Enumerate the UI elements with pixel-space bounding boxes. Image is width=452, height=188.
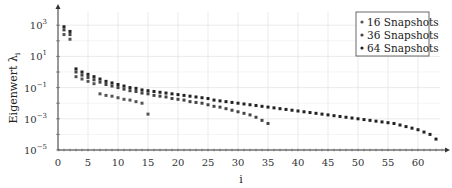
data-point (231, 109, 234, 112)
y-axis-label: Eigenwert λi (7, 52, 22, 123)
data-point (165, 95, 168, 98)
x-tick-label: 20 (172, 157, 185, 168)
y-axis-label-group: Eigenwert λi (7, 52, 22, 123)
data-point (315, 112, 318, 115)
data-point (351, 117, 354, 120)
data-point (159, 95, 162, 98)
data-point (87, 80, 90, 83)
data-point (405, 125, 408, 128)
data-point (243, 102, 246, 105)
data-point (207, 97, 210, 100)
y-tick-label: 103 (30, 18, 47, 31)
data-point (201, 102, 204, 105)
data-point (339, 115, 342, 118)
data-point (321, 113, 324, 116)
legend-item-16-snapshots: 16 Snapshots (367, 16, 439, 28)
data-point (375, 120, 378, 123)
data-point (105, 94, 108, 97)
data-point (345, 116, 348, 119)
legend-item-64-snapshots: 64 Snapshots (367, 42, 439, 54)
y-tick-label: 10−1 (24, 81, 47, 94)
data-point (69, 33, 72, 36)
y-tick-exponent: 1 (43, 49, 47, 57)
x-axis-label: i (239, 173, 243, 186)
data-point (129, 99, 132, 102)
data-point (159, 91, 162, 94)
data-point (129, 86, 132, 89)
y-tick-exponent: 3 (43, 18, 47, 26)
data-point (75, 71, 78, 74)
data-point (81, 71, 84, 74)
data-point (105, 83, 108, 86)
data-point (195, 101, 198, 104)
x-tick-labels: 051015202530354045505560 (55, 157, 425, 168)
data-point (141, 92, 144, 95)
y-tick-label: 101 (30, 49, 47, 62)
data-point (171, 97, 174, 100)
data-point (333, 114, 336, 117)
data-point (387, 121, 390, 124)
y-tick-label: 10−5 (24, 143, 47, 156)
data-point (117, 86, 120, 89)
data-point (243, 112, 246, 115)
data-point (423, 131, 426, 134)
eigenvalue-chart: 051015202530354045505560 10310110−110−31… (0, 0, 452, 188)
data-point (153, 94, 156, 97)
data-point (207, 103, 210, 106)
data-point (255, 116, 258, 119)
data-point (249, 113, 252, 116)
x-tick-label: 5 (85, 157, 91, 168)
data-point (399, 124, 402, 127)
data-point (183, 99, 186, 102)
legend-item-36-snapshots: 36 Snapshots (367, 29, 439, 41)
data-point (291, 109, 294, 112)
data-point (231, 101, 234, 104)
data-point (411, 127, 414, 130)
data-point (309, 111, 312, 114)
data-point (69, 30, 72, 33)
data-point (63, 28, 66, 31)
data-point (93, 78, 96, 81)
y-axis-label-subscript: i (13, 52, 22, 55)
legend: 16 Snapshots 36 Snapshots 64 Snapshots (356, 12, 439, 56)
data-point (213, 99, 216, 102)
data-point (189, 95, 192, 98)
x-tick-label: 15 (142, 157, 155, 168)
data-point (141, 102, 144, 105)
data-point (135, 100, 138, 103)
data-point (249, 103, 252, 106)
data-point (99, 78, 102, 81)
data-point (147, 113, 150, 116)
data-point (75, 75, 78, 78)
y-axis-arrow-icon (56, 4, 61, 9)
data-point (303, 110, 306, 113)
x-tick-label: 45 (322, 157, 335, 168)
data-point (63, 33, 66, 36)
data-point (261, 119, 264, 122)
data-point (147, 92, 150, 95)
data-point (99, 81, 102, 84)
data-point (123, 85, 126, 88)
x-tick-label: 55 (382, 157, 395, 168)
data-point (261, 105, 264, 108)
data-point (99, 92, 102, 95)
data-point (285, 108, 288, 111)
x-tick-label: 60 (412, 157, 425, 168)
y-tick-exponent: −5 (37, 143, 47, 151)
data-point (117, 96, 120, 99)
data-point (393, 122, 396, 125)
data-point (93, 75, 96, 78)
data-point (153, 90, 156, 93)
data-point (201, 96, 204, 99)
y-axis-label-main: Eigenwert λ (7, 55, 20, 123)
data-point (255, 104, 258, 107)
data-point (429, 133, 432, 136)
data-point (195, 95, 198, 98)
legend-marker-36 (360, 33, 363, 36)
data-point (81, 74, 84, 77)
data-point (369, 119, 372, 122)
data-point (87, 73, 90, 76)
data-point (129, 89, 132, 92)
data-point (165, 92, 168, 95)
x-tick-label: 35 (262, 157, 275, 168)
